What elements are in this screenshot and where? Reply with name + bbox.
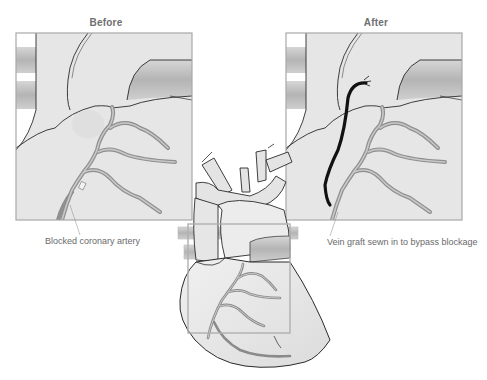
after-caption: Vein graft sewn in to bypass blockage	[327, 237, 478, 247]
bypass-diagram	[0, 0, 487, 380]
after-label: After	[346, 17, 406, 28]
before-caption: Blocked coronary artery	[45, 236, 140, 246]
before-label: Before	[76, 17, 136, 28]
after-panel	[286, 33, 462, 236]
before-panel	[16, 33, 192, 235]
